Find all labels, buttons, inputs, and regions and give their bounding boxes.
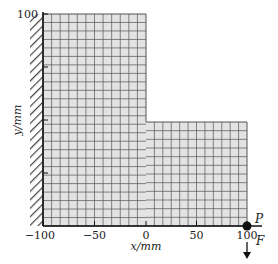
x-tick-label: −50 bbox=[83, 229, 106, 242]
force-arrow-icon bbox=[243, 242, 251, 259]
x-tick-label: −100 bbox=[25, 229, 55, 242]
y-axis-label: y/mm bbox=[11, 105, 24, 137]
x-axis-label: x/mm bbox=[131, 240, 162, 253]
y-tick-label: 100 bbox=[17, 8, 38, 21]
point-p-marker bbox=[243, 222, 252, 231]
point-p-label: P bbox=[254, 212, 264, 226]
x-tick-label: 100 bbox=[237, 229, 258, 242]
mesh-body bbox=[43, 14, 247, 226]
figure: −100 −50 0 50 100 100 x/mm y/mm P F bbox=[0, 0, 278, 264]
fixed-wall-hatch bbox=[30, 14, 43, 226]
force-f-label: F bbox=[255, 234, 265, 248]
x-tick-label: 50 bbox=[190, 229, 204, 242]
